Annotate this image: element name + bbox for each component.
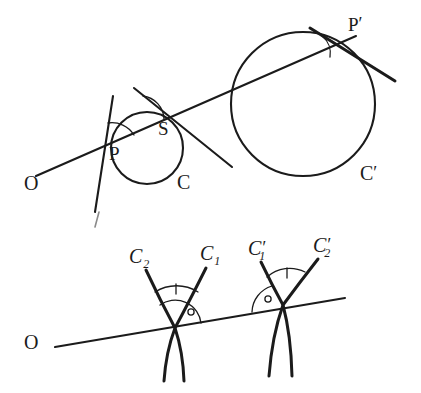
label-origin-upper: O — [24, 173, 38, 193]
angle-arc-at-P — [108, 123, 134, 135]
label-curve-C2-prime: C′2 — [313, 235, 336, 255]
angle-arc-lineO-C1prime — [252, 286, 272, 312]
prime-mark-icon: ′ — [359, 14, 363, 34]
label-curve-C1-prime-sub: 1 — [259, 249, 265, 263]
label-point-P-prime: P′ — [348, 15, 363, 34]
label-point-P: P — [109, 144, 120, 163]
geometry-figure: O P S C P′ C′ O C2 C1 C′1 C′2 — [0, 0, 421, 393]
label-curve-C1-sub: 1 — [214, 254, 220, 268]
label-point-S: S — [158, 119, 169, 138]
circle-C — [111, 112, 183, 184]
label-curve-C1-prime: C′1 — [248, 238, 271, 258]
label-origin-lower: O — [24, 332, 38, 352]
label-curve-C1: C1 — [200, 243, 219, 263]
label-point-P-prime-base: P — [348, 14, 359, 35]
angle-dot-C1-lineO — [188, 309, 194, 315]
lower-line-O — [55, 298, 345, 347]
label-curve-C2: C2 — [129, 246, 148, 266]
secant-line-O-to-Pprime — [36, 36, 356, 176]
figure-drawing-canvas — [0, 0, 421, 393]
angle-dot-lineO-C1prime — [265, 296, 271, 302]
prime-mark-icon: ′ — [373, 163, 377, 183]
label-circle-C-prime-base: C — [360, 162, 373, 184]
label-curve-C2-sub: 2 — [143, 257, 149, 271]
label-curve-C2-base: C — [129, 245, 142, 267]
label-circle-C-prime: C′ — [360, 163, 377, 183]
angle-arc-C1prime-C2prime — [267, 268, 305, 277]
curve-C1-prime — [261, 262, 292, 376]
curve-C2-prime — [269, 259, 318, 376]
label-curve-C1-base: C — [200, 242, 213, 264]
label-curve-C2-prime-sub: 2 — [324, 246, 330, 260]
label-circle-C: C — [177, 172, 190, 192]
stray-tick-mark — [95, 212, 99, 227]
